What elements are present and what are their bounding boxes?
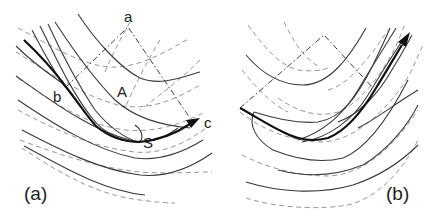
label-S: S (143, 134, 153, 151)
label-b: b (53, 88, 61, 105)
panel-a-diagram: a b c A S (a) (0, 0, 218, 218)
dashed-curves (16, 22, 212, 203)
label-a: a (124, 8, 133, 25)
solid-curves (246, 28, 418, 191)
label-c: c (204, 114, 212, 131)
panel-b-diagram: (b) (218, 0, 436, 218)
label-A: A (117, 83, 127, 100)
panel-caption-a: (a) (24, 183, 47, 204)
frame-square (66, 27, 190, 118)
panel-b: (b) (218, 0, 436, 218)
panel-a: a b c A S (a) (0, 0, 218, 218)
panel-caption-b: (b) (386, 183, 409, 204)
figure: a b c A S (a) (0, 0, 436, 218)
